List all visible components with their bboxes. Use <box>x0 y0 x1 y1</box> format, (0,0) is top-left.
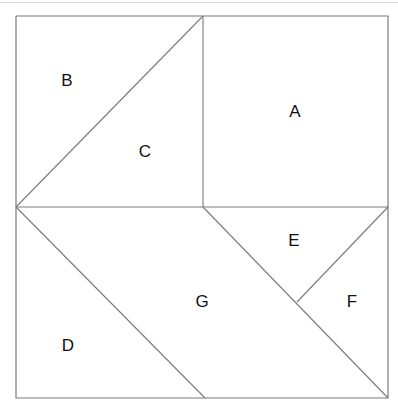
tangram-diagram: A B C D E F G <box>0 0 398 411</box>
piece-label-e: E <box>288 231 299 250</box>
figure-canvas: A B C D E F G <box>0 0 398 411</box>
piece-label-c: C <box>139 142 151 161</box>
piece-label-g: G <box>195 292 208 311</box>
piece-label-d: D <box>62 336 74 355</box>
piece-label-f: F <box>347 292 357 311</box>
piece-label-b: B <box>61 71 72 90</box>
piece-label-a: A <box>289 102 301 121</box>
